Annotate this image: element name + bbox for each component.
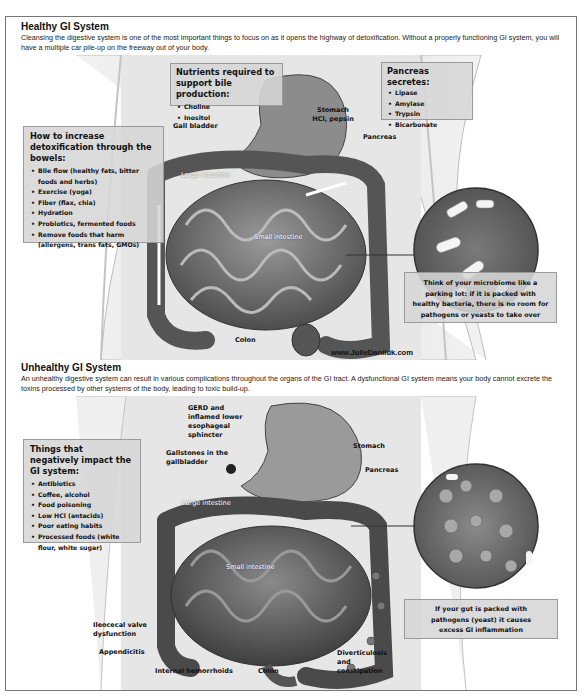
pathogens-callout: If your gut is packed with pathogens (ye… [404, 599, 558, 639]
negative-callout-heading: Things that negatively impact the GI sys… [30, 444, 134, 477]
label-large-intestine: Large intestine [182, 499, 231, 508]
unhealthy-section-description: An unhealthy digestive system can result… [21, 374, 561, 394]
pancreas-item: Amylase [387, 99, 467, 110]
label-stomach: Stomach [353, 442, 385, 451]
pancreas-item: Trypsin [387, 109, 467, 120]
label-colon: Colon [235, 336, 256, 345]
label-stomach-secretions: HCl, pepsin [303, 115, 363, 124]
label-pancreas: Pancreas [363, 133, 396, 142]
label-colon: Colon [258, 667, 279, 676]
label-small-intestine: Small intestine [254, 233, 302, 242]
negative-item: Low HCl (antacids) [30, 511, 134, 522]
label-stomach: Stomach HCl, pepsin [303, 106, 363, 124]
detox-item: Remove foods that harm (allergens, trans… [30, 230, 157, 251]
healthy-section-title: Healthy GI System [21, 21, 109, 32]
label-gall-bladder: Gall bladder [173, 122, 218, 131]
label-appendicitis: Appendicitis [99, 648, 145, 657]
nutrients-callout-heading: Nutrients required to support bile produ… [176, 67, 277, 100]
unhealthy-section-title: Unhealthy GI System [21, 362, 121, 373]
nutrients-callout: Nutrients required to support bile produ… [170, 63, 283, 106]
label-stomach-name: Stomach [303, 106, 363, 115]
negative-impact-callout: Things that negatively impact the GI sys… [23, 439, 141, 543]
label-gerd: GERD and inflamed lower esophageal sphin… [188, 404, 258, 440]
detox-item: Probiotics, fermented foods [30, 219, 157, 230]
label-large-intestine: Large intestine [181, 171, 230, 180]
pancreas-item: Bicarbonate [387, 120, 467, 131]
healthy-section-description: Cleansing the digestive system is one of… [21, 33, 561, 53]
pancreas-item: Lipase [387, 88, 467, 99]
negative-item: Antibiotics [30, 479, 134, 490]
label-internal-hemorrhoids: Internal hemorrhoids [155, 667, 233, 676]
negative-item: Processed foods (white flour, white suga… [30, 532, 134, 553]
detox-item: Exercise (yoga) [30, 187, 157, 198]
label-ileocecal-valve: Ileocecal valve dysfunction [93, 621, 148, 639]
microbiome-callout: Think of your microbiome like a parking … [404, 272, 557, 323]
label-gallstones: Gallstones in the gallbladder [166, 449, 230, 467]
detox-item: Hydration [30, 208, 157, 219]
website-credit: www.JulieDaniluk.com [331, 348, 413, 357]
label-small-intestine: Small intestine [226, 563, 274, 572]
negative-item: Coffee, alcohol [30, 490, 134, 501]
pancreas-secretes-callout: Pancreas secretes: Lipase Amylase Trypsi… [381, 62, 473, 120]
pancreas-callout-heading: Pancreas secretes: [387, 66, 467, 88]
label-diverticulosis: Diverticulosis and constipation [337, 649, 397, 676]
label-pancreas: Pancreas [365, 466, 398, 475]
detox-item: Fiber (flax, chia) [30, 198, 157, 209]
detox-callout: How to increase detoxification through t… [23, 126, 164, 243]
nutrient-item: Choline [176, 102, 277, 113]
detox-item: Bile flow (healthy fats, bitter foods an… [30, 166, 157, 187]
negative-item: Food poisoning [30, 500, 134, 511]
negative-item: Poor eating habits [30, 521, 134, 532]
detox-callout-heading: How to increase detoxification through t… [30, 131, 157, 164]
